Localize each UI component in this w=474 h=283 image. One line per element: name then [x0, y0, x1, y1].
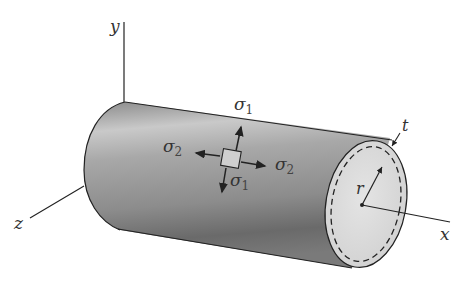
stress-element-square [221, 149, 242, 169]
y-axis-label: y [109, 16, 120, 36]
z-axis-label: z [13, 213, 24, 233]
pressure-vessel-diagram: y z x r t σ1 σ2 σ2 σ1 [0, 0, 474, 283]
radius-label: r [356, 179, 365, 198]
sigma1-top-label: σ1 [234, 94, 253, 117]
thickness-arrow [392, 133, 400, 146]
thickness-label: t [402, 116, 409, 135]
z-axis [30, 186, 84, 218]
x-axis-label: x [440, 224, 450, 244]
